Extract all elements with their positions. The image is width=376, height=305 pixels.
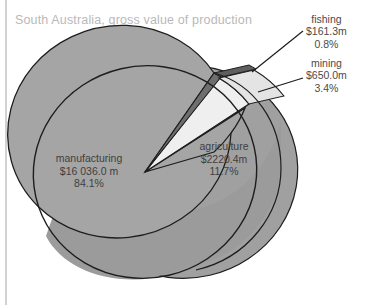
- callout-fishing-value: $161.3m: [306, 25, 347, 37]
- callout-mining-name: mining: [306, 57, 347, 69]
- callout-mining-percent: 3.4%: [306, 82, 347, 94]
- callout-mining-value: $650.0m: [306, 69, 347, 81]
- label-agriculture-percent: 11.7%: [176, 165, 272, 178]
- callout-fishing: fishing $161.3m 0.8%: [306, 13, 347, 50]
- label-agriculture-value: $2220.4m: [176, 153, 272, 166]
- leader-line-fishing: [252, 31, 303, 72]
- label-manufacturing-percent: 84.1%: [37, 177, 141, 190]
- callout-fishing-name: fishing: [306, 13, 347, 25]
- label-manufacturing-name: manufacturing: [37, 152, 141, 165]
- label-agriculture-name: agriculture: [176, 140, 272, 153]
- chart-canvas: South Australia, gross value of producti…: [0, 0, 376, 305]
- label-manufacturing: manufacturing $16 036.0 m 84.1%: [37, 152, 141, 190]
- label-agriculture: agriculture $2220.4m 11.7%: [176, 140, 272, 178]
- callout-fishing-percent: 0.8%: [306, 38, 347, 50]
- callout-mining: mining $650.0m 3.4%: [306, 57, 347, 94]
- label-manufacturing-value: $16 036.0 m: [37, 165, 141, 178]
